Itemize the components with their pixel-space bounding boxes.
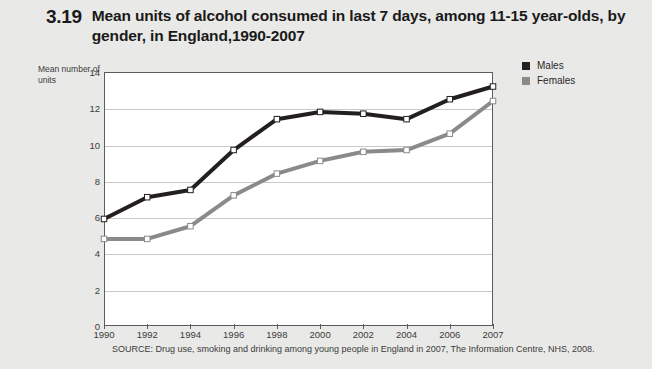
x-axis-tick: 1996 xyxy=(223,329,244,340)
y-axis-tick: 14 xyxy=(78,67,100,78)
legend-swatch-icon xyxy=(522,77,530,85)
x-axis-tick: 2004 xyxy=(396,329,417,340)
y-axis-tick-labels: 02468101214 xyxy=(74,72,100,326)
x-axis-tick: 2007 xyxy=(482,329,503,340)
data-point-marker xyxy=(447,131,453,137)
data-point-marker xyxy=(231,193,237,199)
data-point-marker xyxy=(101,236,107,242)
x-axis-tick: 1994 xyxy=(180,329,201,340)
data-point-marker xyxy=(490,84,496,90)
data-point-marker xyxy=(490,98,496,104)
x-axis-tick-mark xyxy=(320,324,321,329)
figure-title-block: 3.19 Mean units of alcohol consumed in l… xyxy=(46,6,636,47)
x-axis-tick-labels: 1990199219941996199820002002200420062007 xyxy=(104,329,493,345)
x-axis-tick-mark xyxy=(493,324,494,329)
x-axis-tick-mark xyxy=(104,324,105,329)
x-axis-tick-mark xyxy=(190,324,191,329)
x-axis-tick: 2006 xyxy=(439,329,460,340)
series-layer xyxy=(104,72,493,326)
page-title: Mean units of alcohol consumed in last 7… xyxy=(92,6,636,47)
data-point-marker xyxy=(101,216,107,222)
series-line-females xyxy=(104,101,493,239)
data-point-marker xyxy=(274,116,280,122)
x-axis-tick-mark xyxy=(277,324,278,329)
figure-page: 3.19 Mean units of alcohol consumed in l… xyxy=(0,0,652,369)
data-point-marker xyxy=(274,171,280,177)
chart-legend: MalesFemales xyxy=(522,60,575,90)
y-axis-tick: 8 xyxy=(78,175,100,186)
figure-number: 3.19 xyxy=(46,6,82,28)
x-axis-tick-mark xyxy=(407,324,408,329)
legend-swatch-icon xyxy=(522,62,530,70)
data-point-marker xyxy=(144,194,150,200)
data-point-marker xyxy=(404,116,410,122)
x-axis-tick-mark xyxy=(450,324,451,329)
y-axis-tick: 2 xyxy=(78,284,100,295)
y-axis-tick: 6 xyxy=(78,212,100,223)
y-axis-tick: 4 xyxy=(78,248,100,259)
chart-container: Mean number of units 02468101214 1990199… xyxy=(0,56,652,346)
data-point-marker xyxy=(447,96,453,102)
legend-item-males: Males xyxy=(522,60,575,71)
data-point-marker xyxy=(317,158,323,164)
data-point-marker xyxy=(361,149,367,155)
x-axis-tick: 1990 xyxy=(93,329,114,340)
series-line-males xyxy=(104,87,493,219)
x-axis-tick: 2002 xyxy=(353,329,374,340)
data-point-marker xyxy=(144,236,150,242)
x-axis-tick: 2000 xyxy=(310,329,331,340)
data-point-marker xyxy=(361,111,367,117)
x-axis-tick: 1992 xyxy=(137,329,158,340)
y-axis-tick: 10 xyxy=(78,139,100,150)
data-point-marker xyxy=(188,187,194,193)
legend-label: Females xyxy=(537,75,575,86)
legend-label: Males xyxy=(537,60,564,71)
legend-item-females: Females xyxy=(522,75,575,86)
source-note: SOURCE: Drug use, smoking and drinking a… xyxy=(112,344,595,354)
data-point-marker xyxy=(231,147,237,153)
x-axis-tick-mark xyxy=(363,324,364,329)
x-axis-tick: 1998 xyxy=(266,329,287,340)
data-point-marker xyxy=(317,109,323,115)
y-axis-tick: 12 xyxy=(78,103,100,114)
data-point-marker xyxy=(404,147,410,153)
x-axis-tick-mark xyxy=(234,324,235,329)
data-point-marker xyxy=(188,223,194,229)
x-axis-tick-mark xyxy=(147,324,148,329)
